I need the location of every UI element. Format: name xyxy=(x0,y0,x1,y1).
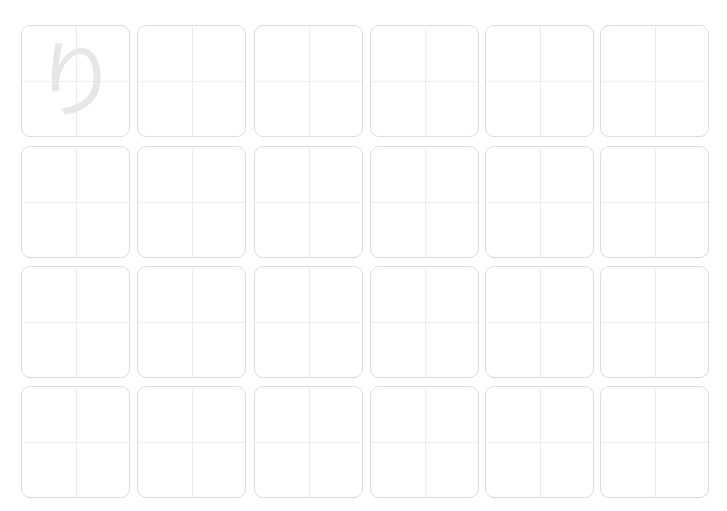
horizontal-guide-line xyxy=(255,442,362,443)
practice-cell xyxy=(254,266,363,378)
horizontal-guide-line xyxy=(255,81,362,82)
horizontal-guide-line xyxy=(371,322,478,323)
practice-cell xyxy=(21,146,130,258)
horizontal-guide-line xyxy=(486,322,593,323)
trace-guide-character: り xyxy=(22,26,129,136)
practice-cell xyxy=(137,386,246,498)
horizontal-guide-line xyxy=(601,81,708,82)
practice-cell xyxy=(370,386,479,498)
practice-cell xyxy=(485,386,594,498)
practice-cell xyxy=(137,25,246,137)
practice-cell xyxy=(254,386,363,498)
horizontal-guide-line xyxy=(601,442,708,443)
practice-cell xyxy=(600,386,709,498)
practice-cell xyxy=(370,266,479,378)
horizontal-guide-line xyxy=(138,202,245,203)
horizontal-guide-line xyxy=(255,202,362,203)
horizontal-guide-line xyxy=(22,202,129,203)
practice-cell xyxy=(370,25,479,137)
horizontal-guide-line xyxy=(371,202,478,203)
practice-cell xyxy=(485,25,594,137)
practice-cell xyxy=(254,146,363,258)
practice-cell xyxy=(600,25,709,137)
practice-cell xyxy=(21,266,130,378)
practice-cell xyxy=(137,146,246,258)
practice-cell xyxy=(254,25,363,137)
practice-cell xyxy=(370,146,479,258)
horizontal-guide-line xyxy=(255,322,362,323)
practice-cell: り xyxy=(21,25,130,137)
horizontal-guide-line xyxy=(486,202,593,203)
handwriting-practice-sheet: り xyxy=(0,0,727,511)
practice-cell xyxy=(600,146,709,258)
horizontal-guide-line xyxy=(22,322,129,323)
practice-cell xyxy=(137,266,246,378)
practice-cell xyxy=(21,386,130,498)
practice-cell xyxy=(600,266,709,378)
horizontal-guide-line xyxy=(22,442,129,443)
horizontal-guide-line xyxy=(138,322,245,323)
horizontal-guide-line xyxy=(486,442,593,443)
horizontal-guide-line xyxy=(371,81,478,82)
practice-cell xyxy=(485,266,594,378)
horizontal-guide-line xyxy=(601,202,708,203)
horizontal-guide-line xyxy=(138,81,245,82)
practice-cell xyxy=(485,146,594,258)
horizontal-guide-line xyxy=(138,442,245,443)
horizontal-guide-line xyxy=(601,322,708,323)
horizontal-guide-line xyxy=(371,442,478,443)
horizontal-guide-line xyxy=(486,81,593,82)
